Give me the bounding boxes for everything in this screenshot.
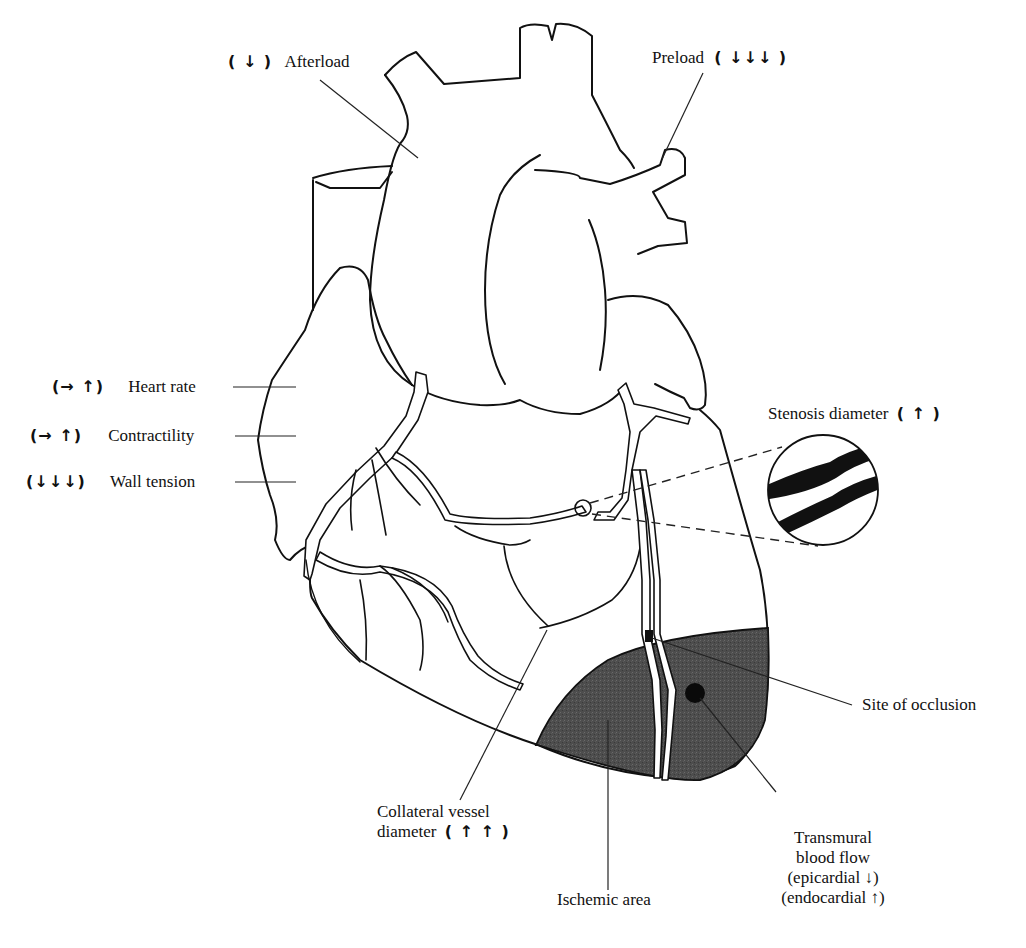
collateral-line2: diameter	[377, 822, 436, 841]
contractility-text: Contractility	[108, 426, 194, 445]
wall-tension-arrows: (↓↓↓)	[26, 472, 86, 491]
preload-arrows: ( ↓↓↓ )	[714, 48, 787, 67]
label-afterload: ( ↓ ) Afterload	[228, 52, 350, 72]
heart-rate-text: Heart rate	[128, 377, 195, 396]
label-stenosis-diameter: Stenosis diameter ( ↑ )	[768, 404, 941, 424]
stenosis-arrows: ( ↑ )	[897, 404, 941, 423]
leader-lines	[233, 73, 852, 890]
heart-diagram: ( ↓ ) Afterload Preload ( ↓↓↓ ) (→ ↑) He…	[0, 0, 1026, 948]
occlusion-marker	[645, 630, 653, 642]
preload-text: Preload	[652, 48, 704, 67]
heart-rate-arrows: (→ ↑)	[52, 377, 104, 396]
afterload-text: Afterload	[284, 52, 349, 71]
label-heart-rate: (→ ↑) Heart rate	[52, 377, 196, 397]
occlusion-text: Site of occlusion	[862, 695, 976, 714]
label-transmural-blood-flow: Transmural blood flow (epicardial ↓) (en…	[748, 828, 918, 908]
transmural-line3: (epicardial ↓)	[748, 868, 918, 888]
transmural-line4: (endocardial ↑)	[748, 888, 918, 908]
label-contractility: (→ ↑) Contractility	[30, 426, 194, 446]
contractility-arrows: (→ ↑)	[30, 426, 82, 445]
afterload-arrows: ( ↓ )	[228, 52, 272, 71]
label-wall-tension: (↓↓↓) Wall tension	[26, 472, 195, 492]
collateral-arrows: ( ↑ ↑ )	[445, 822, 510, 841]
collateral-line1: Collateral vessel	[377, 802, 510, 822]
label-ischemic-area: Ischemic area	[557, 890, 651, 910]
ischemic-text: Ischemic area	[557, 890, 651, 909]
label-site-of-occlusion: Site of occlusion	[862, 695, 976, 715]
stenosis-text: Stenosis diameter	[768, 404, 888, 423]
transmural-line2: blood flow	[748, 848, 918, 868]
label-preload: Preload ( ↓↓↓ )	[652, 48, 787, 68]
label-collateral-vessel: Collateral vessel diameter ( ↑ ↑ )	[377, 802, 510, 842]
aorta	[370, 24, 687, 385]
transmural-line1: Transmural	[748, 828, 918, 848]
wall-tension-text: Wall tension	[110, 472, 195, 491]
